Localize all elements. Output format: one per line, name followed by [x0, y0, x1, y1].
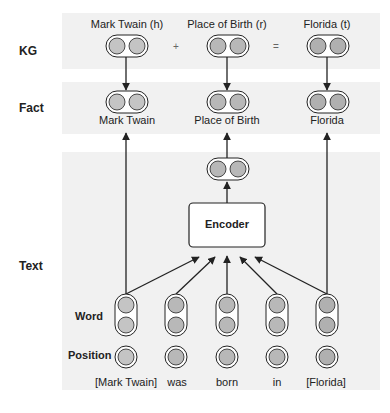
position-embedding-icon-3 — [266, 346, 288, 368]
encoder-output-embedding-icon — [207, 158, 249, 180]
token-label-3: in — [273, 376, 282, 388]
token-label-4: [Florida] — [306, 376, 346, 388]
token-label-2: born — [216, 376, 238, 388]
fact-tail-embedding-icon — [307, 91, 349, 113]
position-embedding-icon-1 — [165, 346, 187, 368]
word-embedding-icon-0 — [115, 294, 137, 336]
word-embedding-icon-3 — [266, 294, 288, 336]
kg-head-embedding-icon — [106, 35, 148, 57]
kg-relation-embedding-icon — [207, 35, 249, 57]
position-embedding-icon-4 — [316, 346, 338, 368]
token-label-1: was — [167, 376, 187, 388]
diagram-graphics — [0, 0, 390, 413]
word-embedding-icon-1 — [165, 294, 187, 336]
word-embedding-icon-2 — [216, 294, 238, 336]
kg-tail-embedding-icon — [307, 35, 349, 57]
fact-head-embedding-icon — [106, 91, 148, 113]
position-embedding-icon-0 — [115, 346, 137, 368]
position-embedding-icon-2 — [216, 346, 238, 368]
token-label-0: [Mark Twain] — [95, 376, 157, 388]
encoder-label: Encoder — [205, 218, 249, 230]
fact-relation-embedding-icon — [207, 91, 249, 113]
word-embedding-icon-4 — [316, 294, 338, 336]
